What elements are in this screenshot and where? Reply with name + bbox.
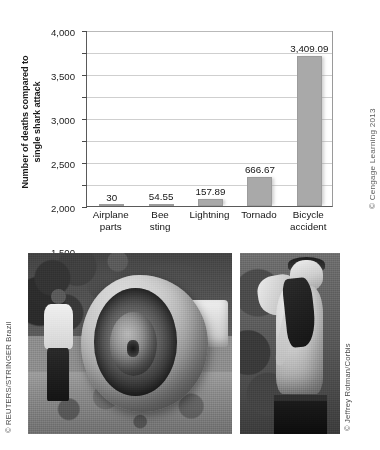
y-axis-tick: 500: [82, 185, 87, 186]
gridline: [87, 31, 332, 32]
y-axis-tick: 0: [82, 207, 87, 208]
y-axis-tick-label: 2,500: [51, 159, 75, 170]
bar: [247, 177, 272, 206]
chart-source-credit: © Cengage Learning 2013: [368, 59, 380, 209]
photo-right-content: [240, 253, 340, 434]
y-axis-title-line-2: single shark attack: [31, 82, 43, 163]
category-label-line: Airplane: [93, 209, 129, 221]
bar-chart-figure: Number of deaths compared to single shar…: [0, 0, 376, 245]
photo-left-credit: © REUTERS/STRINGER Brazil: [4, 322, 13, 433]
gridline: [87, 163, 332, 164]
bar-value-label: 666.67: [245, 164, 275, 175]
y-axis-tick: 4,000: [82, 31, 87, 32]
bar: [99, 204, 124, 206]
x-axis-category-label: Airplaneparts: [93, 209, 129, 232]
y-axis-title-line-1: Number of deaths compared to: [19, 56, 31, 189]
y-axis-tick: 1,000: [82, 163, 87, 164]
shark-attack-survivor-photo: [240, 253, 340, 434]
x-axis-category-label: Tornado: [241, 209, 276, 221]
bar: [198, 199, 223, 206]
gridline: [87, 141, 332, 142]
photo-grain: [28, 253, 232, 434]
gridline: [87, 75, 332, 76]
y-axis-tick-label: 3,000: [51, 115, 75, 126]
x-axis-category-label: Beesting: [150, 209, 171, 232]
photo-grain: [240, 253, 340, 434]
category-label-line: Lightning: [190, 209, 230, 221]
bar: [149, 204, 174, 206]
category-label-line: parts: [93, 221, 129, 233]
gridline: [87, 119, 332, 120]
bar-value-label: 157.89: [196, 186, 226, 197]
bar-value-label: 3,409.09: [290, 43, 328, 54]
bar-value-label: 30: [106, 192, 117, 203]
x-axis-category-label: Bicycleaccident: [290, 209, 327, 232]
category-label-line: Tornado: [241, 209, 276, 221]
category-label-line: Bee: [150, 209, 171, 221]
bar: [297, 56, 322, 206]
category-label-line: accident: [290, 221, 327, 233]
bar-value-label: 54.55: [149, 191, 174, 202]
photo-left-content: [28, 253, 232, 434]
y-axis-tick: 1,500: [82, 141, 87, 142]
gridline: [87, 97, 332, 98]
y-axis-tick-label: 3,500: [51, 71, 75, 82]
category-label-line: Bicycle: [290, 209, 327, 221]
plot-area: 05001,0001,5002,0002,5003,0003,5004,000 …: [86, 31, 333, 207]
category-label-line: sting: [150, 221, 171, 233]
y-axis-tick: 3,500: [82, 53, 87, 54]
y-axis-tick: 3,000: [82, 75, 87, 76]
y-axis-tick: 2,500: [82, 97, 87, 98]
y-axis-title: Number of deaths compared to single shar…: [14, 32, 48, 212]
airplane-wreckage-photo: [28, 253, 232, 434]
y-axis-tick-label: 4,000: [51, 27, 75, 38]
photo-right-credit: © Jeffrey Rotman/Corbis: [343, 343, 352, 431]
y-axis-tick-label: 2,000: [51, 203, 75, 214]
x-axis-category-label: Lightning: [190, 209, 230, 221]
y-axis-tick: 2,000: [82, 119, 87, 120]
photo-row: © REUTERS/STRINGER Brazil © Jeffrey Rotm…: [0, 253, 376, 435]
